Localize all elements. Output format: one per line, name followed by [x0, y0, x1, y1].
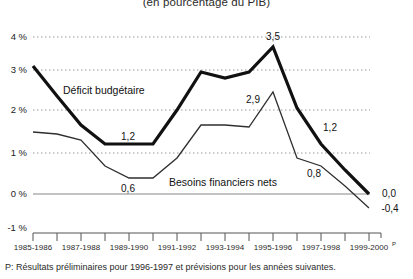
- series-line-besoins-financiers-nets: [33, 92, 369, 208]
- data-label-deficit-1997-1998: 1,2: [323, 122, 337, 133]
- x-tick-label-1991-1992: 1991-1992: [158, 243, 197, 252]
- y-axis-labels: 4 % 3 % 2 % 1 % 0 % -1 %: [7, 31, 27, 233]
- y-tick-4pct: 4 %: [11, 31, 28, 42]
- x-tick-label-1987-1988: 1987-1988: [62, 243, 101, 252]
- data-label-besoins-1989-1990: 0,6: [121, 183, 135, 194]
- x-axis-labels: 1985-1986 1987-1988 1989-1990 1991-1992 …: [14, 241, 396, 252]
- data-label-besoins-1999-2000: -0,4: [381, 203, 399, 214]
- chart-figure: (en pourcentage du PIB) 4 % 3 % 2 % 1 % …: [0, 0, 413, 279]
- y-tick-neg1pct: -1 %: [7, 222, 27, 233]
- x-tick-label-prelim-marker: P: [392, 241, 396, 247]
- x-tick-label-1985-1986: 1985-1986: [14, 243, 53, 252]
- data-label-besoins-1995-1996: 2,9: [246, 94, 260, 105]
- x-tick-label-1993-1994: 1993-1994: [206, 243, 245, 252]
- x-axis: [33, 233, 381, 241]
- y-tick-2pct: 2 %: [11, 104, 28, 115]
- data-label-besoins-1997-1998: 0,8: [307, 168, 321, 179]
- x-tick-label-1989-1990: 1989-1990: [110, 243, 149, 252]
- x-tick-label-1995-1996: 1995-1996: [254, 243, 293, 252]
- x-tick-label-1999-2000: 1999-2000: [350, 243, 389, 252]
- data-label-deficit-1995-1996: 3,5: [266, 31, 280, 42]
- y-tick-1pct: 1 %: [11, 147, 28, 158]
- chart-footnote: P: Résultats préliminaires pour 1996-199…: [5, 262, 336, 272]
- data-label-deficit-1999-2000: 0,0: [382, 188, 396, 199]
- chart-plot-area: 4 % 3 % 2 % 1 % 0 % -1 %: [0, 0, 413, 279]
- x-tick-label-1997-1998: 1997-1998: [302, 243, 341, 252]
- data-label-deficit-1989-1990: 1,2: [121, 131, 135, 142]
- series-label-besoins-financiers-nets: Besoins financiers nets: [169, 176, 277, 188]
- y-tick-3pct: 3 %: [11, 64, 28, 75]
- y-tick-0pct: 0 %: [11, 188, 28, 199]
- series-label-deficit-budgetaire: Déficit budgétaire: [63, 84, 145, 96]
